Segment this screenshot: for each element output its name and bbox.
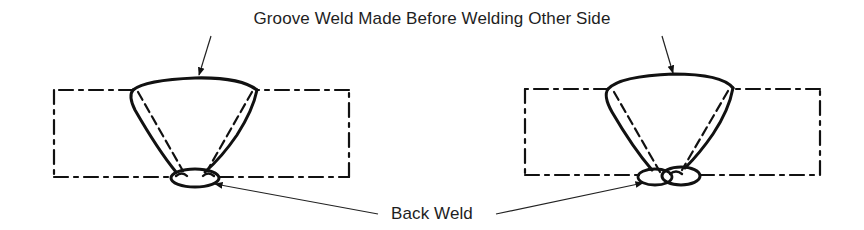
right-weld-cap [608, 74, 733, 89]
arrow-to-left-back-weld [215, 184, 378, 214]
right-weld-wall-left [606, 89, 652, 170]
left-weld-wall-left [131, 90, 176, 172]
arrow-to-right-weld-cap [662, 36, 673, 73]
left-plate-outline [54, 90, 349, 177]
right-joint [525, 74, 820, 185]
arrow-to-left-weld-cap [199, 36, 211, 75]
left-back-weld [171, 169, 219, 187]
left-joint [54, 78, 349, 187]
right-plate-outline [525, 89, 820, 175]
right-groove-line-right [682, 91, 728, 170]
left-groove-line-right [207, 92, 252, 171]
right-groove-line-left [614, 92, 660, 172]
right-weld-wall-right [685, 88, 733, 168]
left-weld-cap [133, 78, 257, 90]
arrow-to-right-back-weld [496, 183, 643, 214]
weld-diagram [0, 0, 864, 230]
left-groove-line-left [138, 92, 183, 171]
leader-arrows [199, 36, 673, 214]
